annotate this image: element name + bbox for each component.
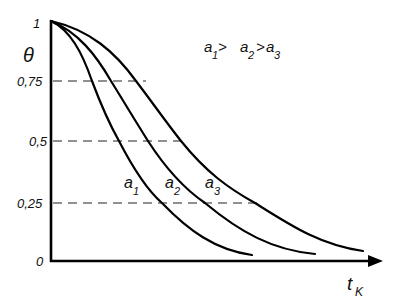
y-tick-1: 1 — [33, 16, 40, 31]
x-axis-label: t — [347, 273, 353, 294]
y-tick-0: 0 — [36, 254, 44, 269]
y-tick-075: 0,75 — [17, 74, 43, 89]
curve-a3 — [51, 21, 363, 251]
svg-text:3: 3 — [214, 185, 221, 197]
y-tick-025: 0,25 — [17, 196, 43, 211]
svg-text:a: a — [205, 174, 214, 191]
svg-text:3: 3 — [274, 49, 281, 61]
curve-a1 — [51, 21, 252, 255]
y-axis-symbol: θ — [23, 44, 34, 66]
svg-text:>: > — [218, 38, 227, 55]
x-axis-arrow-icon — [368, 255, 383, 267]
curve-label-a1: a 1 — [124, 174, 139, 197]
svg-text:2: 2 — [247, 49, 254, 61]
svg-text:a: a — [165, 174, 174, 191]
theta-vs-time-chart: θ 1 0,75 0,5 0,25 0 t K a 1 a 2 a 3 a 1 … — [0, 0, 394, 305]
x-axis-label-subscript: K — [355, 285, 364, 299]
svg-text:1: 1 — [133, 185, 139, 197]
ordering-annotation: a 1 > a 2 > a 3 — [204, 38, 281, 61]
curve-label-a2: a 2 — [165, 174, 180, 197]
curves — [51, 21, 363, 255]
y-tick-05: 0,5 — [29, 134, 48, 149]
svg-text:a: a — [124, 174, 133, 191]
svg-text:2: 2 — [173, 185, 180, 197]
curve-label-a3: a 3 — [205, 174, 221, 197]
svg-text:>: > — [256, 38, 265, 55]
